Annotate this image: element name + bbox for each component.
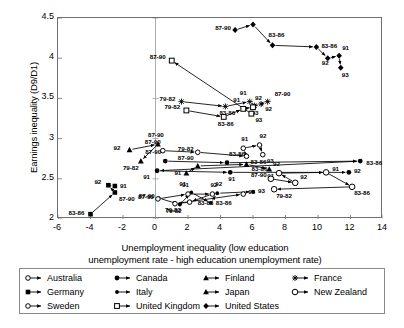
data-point-marker <box>241 192 246 197</box>
data-point-marker <box>251 105 256 110</box>
legend-item-japan[interactable]: Japan <box>202 285 291 299</box>
point-label: 79-82 <box>164 103 180 110</box>
point-label: 79-82 <box>178 145 194 152</box>
point-label: 92 <box>114 144 121 151</box>
plot-area: 87-9079-8283-8691929387-9083-8683-869191… <box>57 17 382 218</box>
legend-label: Japan <box>225 287 250 297</box>
legend-marker-icon <box>113 301 133 311</box>
legend-item-italy[interactable]: Italy <box>113 285 202 299</box>
point-label: 83-86 <box>198 199 214 206</box>
data-point-marker <box>258 101 264 107</box>
legend-item-finland[interactable]: Finland <box>202 271 291 285</box>
data-point-marker <box>292 180 298 186</box>
data-point-marker <box>292 289 298 295</box>
legend-label: United States <box>225 301 279 311</box>
point-label: 92 <box>265 105 272 112</box>
data-point-marker <box>210 192 215 197</box>
legend-label: Canada <box>136 273 168 283</box>
data-point-marker <box>268 176 274 182</box>
data-point-marker <box>358 159 363 164</box>
legend-marker-icon <box>24 287 44 297</box>
data-point-marker <box>250 21 256 27</box>
point-label: 91 <box>233 96 240 103</box>
data-point-marker <box>228 170 233 175</box>
data-point-marker <box>26 304 31 309</box>
data-point-marker <box>221 114 226 119</box>
data-point-marker <box>184 108 189 113</box>
data-point-marker <box>336 53 342 59</box>
point-label: 92 <box>210 181 217 188</box>
legend-marker-icon <box>202 301 222 311</box>
data-point-marker <box>115 304 120 309</box>
data-point-marker <box>115 276 120 281</box>
data-point-marker <box>127 147 133 152</box>
data-point-marker <box>163 159 168 164</box>
point-label: 79-82 <box>165 206 181 213</box>
legend-label: United Kingdom <box>136 301 200 311</box>
legend-marker-icon <box>202 273 222 283</box>
x-tick-label: 12 <box>338 222 362 232</box>
point-label: 87-90 <box>178 154 194 161</box>
legend-item-canada[interactable]: Canada <box>113 271 202 285</box>
y-tick-label: 3 <box>28 132 54 142</box>
legend-item-australia[interactable]: Australia <box>24 271 113 285</box>
series-united-states: 87-909183-8683-86929193 <box>215 18 349 78</box>
point-label: 83-86 <box>218 120 234 127</box>
y-tick-label: 2.5 <box>28 172 54 182</box>
point-label: 91 <box>182 181 189 188</box>
point-label: 83-86 <box>216 199 232 206</box>
point-label: 87-90 <box>150 53 166 60</box>
series-new-zealand: 87-9092929183-8679-82 <box>251 160 371 199</box>
x-tick-label: -6 <box>45 222 69 232</box>
x-axis-title-line1: Unemployment inequality (low education <box>40 242 370 254</box>
x-axis-title: Unemployment inequality (low education u… <box>40 242 370 265</box>
y-tick-label: 3.5 <box>28 91 54 101</box>
point-label: 91 <box>332 165 339 172</box>
legend-item-new-zealand[interactable]: New Zealand <box>291 285 380 299</box>
y-tick-label: 4.5 <box>28 11 54 21</box>
point-label: 92 <box>300 173 307 180</box>
data-point-marker <box>249 111 254 116</box>
legend-item-germany[interactable]: Germany <box>24 285 113 299</box>
legend-label: New Zealand <box>314 287 367 297</box>
legend-item-sweden[interactable]: Sweden <box>24 299 113 313</box>
legend-marker-icon <box>113 287 133 297</box>
data-point-marker <box>265 99 271 105</box>
point-label: 79-82 <box>276 192 292 199</box>
point-label: 92 <box>354 167 361 174</box>
chart-legend: AustraliaCanadaFinlandFranceGermanyItaly… <box>19 268 385 314</box>
point-label: 91 <box>143 173 150 180</box>
legend-marker-icon <box>291 287 311 297</box>
point-label: 83-86 <box>269 31 285 38</box>
x-axis-title-line2: unemployment rate - high education unemp… <box>40 254 370 266</box>
legend-label: Sweden <box>47 301 80 311</box>
point-label: 87-90 <box>275 90 291 97</box>
data-point-marker <box>203 303 209 309</box>
point-label: 91 <box>120 182 127 189</box>
point-label: 87-90 <box>148 131 164 138</box>
legend-grid: AustraliaCanadaFinlandFranceGermanyItaly… <box>20 269 384 313</box>
x-tick-label: 4 <box>208 222 232 232</box>
legend-item-united-kingdom[interactable]: United Kingdom <box>113 299 202 313</box>
point-label: 91 <box>342 44 349 51</box>
legend-item-united-states[interactable]: United States <box>202 299 291 313</box>
point-label: 83-86 <box>354 189 370 196</box>
x-tick-label: 6 <box>240 222 264 232</box>
point-label: 92 <box>255 94 262 101</box>
point-label: 87-90 <box>251 171 267 178</box>
legend-item-france[interactable]: France <box>291 271 380 285</box>
data-point-marker <box>169 58 174 63</box>
point-label: 92 <box>273 160 280 167</box>
point-label: 91 <box>240 89 247 96</box>
data-point-marker <box>314 44 320 50</box>
data-point-marker <box>244 154 249 159</box>
data-point-marker <box>257 143 262 148</box>
point-label: 87-90 <box>215 24 231 31</box>
data-point-marker <box>155 168 160 173</box>
data-point-marker <box>270 42 276 48</box>
point-label: 83-86 <box>69 209 85 216</box>
data-point-marker <box>113 184 118 189</box>
legend-label: Germany <box>47 287 84 297</box>
series-germany: 83-8687-909291 <box>69 178 136 216</box>
data-point-marker <box>276 170 282 176</box>
